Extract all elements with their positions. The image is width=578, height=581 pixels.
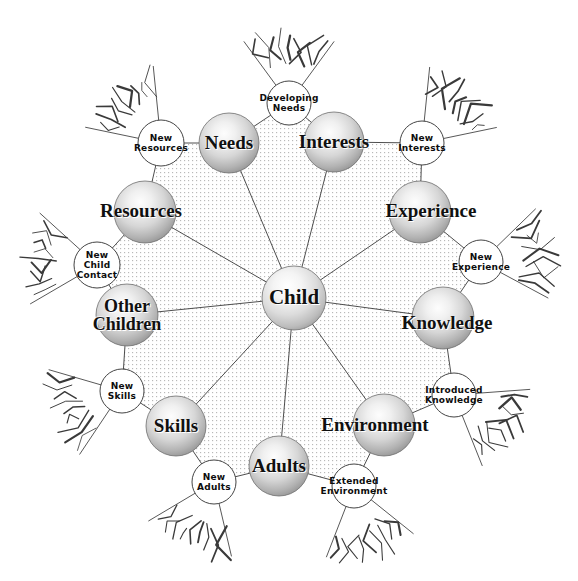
- major-node-sphere[interactable]: [96, 284, 158, 346]
- burst-spike: [489, 428, 506, 441]
- major-node-experience[interactable]: [389, 181, 451, 243]
- major-node-environment[interactable]: [353, 394, 415, 456]
- major-node-sphere[interactable]: [412, 287, 474, 349]
- diagram-canvas: NeedsInterestsExperienceKnowledgeEnviron…: [0, 0, 578, 581]
- minor-node-circle[interactable]: [400, 121, 444, 165]
- center-node-child[interactable]: [262, 266, 326, 330]
- burst-guide-line: [496, 209, 535, 247]
- minor-node-new-child-contact[interactable]: [74, 242, 120, 288]
- burst-spike: [522, 238, 555, 250]
- burst-spike: [378, 525, 395, 554]
- burst-guide-line: [443, 128, 497, 139]
- burst-guide-line: [326, 506, 346, 557]
- burst-spike: [253, 39, 269, 58]
- burst-guide-line: [462, 415, 482, 466]
- burst-spike: [534, 261, 559, 278]
- diagram-svg: [0, 0, 578, 581]
- burst-spike: [499, 397, 520, 409]
- burst-spike: [48, 373, 75, 382]
- burst-spike: [43, 384, 72, 390]
- burst-spike: [472, 125, 484, 130]
- burst-spike: [501, 395, 527, 397]
- center-node-sphere[interactable]: [262, 266, 326, 330]
- major-node-sphere[interactable]: [199, 113, 259, 173]
- burst-spike: [180, 528, 186, 539]
- burst-spike: [478, 426, 494, 450]
- major-node-interests[interactable]: [304, 112, 364, 172]
- burst-spike: [34, 249, 53, 258]
- burst-spike: [255, 33, 270, 68]
- burst-guide-line: [301, 42, 334, 86]
- burst-spike: [165, 521, 179, 532]
- burst-spike: [54, 392, 76, 399]
- major-node-sphere[interactable]: [389, 181, 451, 243]
- minor-node-circle[interactable]: [192, 460, 236, 504]
- major-node-sphere[interactable]: [114, 181, 176, 243]
- burst-spike: [96, 114, 125, 127]
- center-node-sphere: [262, 266, 326, 330]
- burst-spike: [487, 423, 508, 447]
- burst-spike: [499, 415, 523, 432]
- burst-spike: [519, 280, 549, 293]
- burst-spike: [339, 538, 348, 563]
- burst-spike: [331, 537, 339, 558]
- major-node-sphere[interactable]: [146, 396, 206, 456]
- minor-node-new-interests[interactable]: [400, 121, 444, 165]
- burst-spike: [34, 284, 56, 294]
- burst-spike: [363, 524, 376, 552]
- burst-guide-line: [30, 276, 78, 304]
- burst-guide-line: [475, 389, 530, 393]
- burst-spike: [101, 122, 120, 130]
- burst-spike: [204, 524, 209, 550]
- major-node-skills[interactable]: [146, 396, 206, 456]
- burst-spike: [64, 407, 85, 414]
- major-node-other-children[interactable]: [96, 284, 158, 346]
- minor-node-circle[interactable]: [267, 81, 311, 125]
- burst-spike: [158, 505, 177, 519]
- major-node-resources[interactable]: [114, 181, 176, 243]
- burst-spike: [526, 257, 561, 267]
- minor-node-circle[interactable]: [138, 120, 184, 166]
- ring-connector: [421, 164, 422, 182]
- burst-spike: [288, 36, 291, 60]
- burst-spike: [370, 531, 383, 560]
- minor-node-new-adults[interactable]: [192, 460, 236, 504]
- burst-guide-line: [49, 370, 102, 385]
- minor-node-circle[interactable]: [100, 369, 144, 413]
- minor-node-circle[interactable]: [332, 464, 376, 508]
- major-node-adults[interactable]: [249, 436, 309, 496]
- minor-node-developing-needs[interactable]: [267, 81, 311, 125]
- burst-spike: [33, 231, 52, 245]
- burst-spike: [32, 260, 51, 273]
- burst-guide-line: [80, 408, 111, 454]
- burst-spike: [512, 221, 540, 239]
- burst-spike: [44, 221, 67, 238]
- minor-node-circle[interactable]: [432, 373, 476, 417]
- major-node-knowledge[interactable]: [412, 287, 474, 349]
- major-node-sphere[interactable]: [304, 112, 364, 172]
- minor-node-new-resources[interactable]: [138, 120, 184, 166]
- burst-spike: [198, 522, 204, 542]
- burst-spike: [523, 249, 558, 261]
- minor-node-circle[interactable]: [459, 240, 503, 284]
- burst-spike: [67, 414, 79, 423]
- burst-spike: [97, 106, 118, 121]
- burst-spike: [348, 535, 359, 558]
- burst-guide-line: [370, 499, 413, 533]
- burst-guide-line: [40, 213, 81, 250]
- major-node-needs[interactable]: [199, 113, 259, 173]
- major-node-sphere[interactable]: [353, 394, 415, 456]
- burst-spike: [464, 104, 492, 124]
- burst-spike: [34, 240, 46, 249]
- minor-node-introduced-knowledge[interactable]: [432, 373, 476, 417]
- minor-node-new-experience[interactable]: [459, 240, 503, 284]
- minor-node-circle[interactable]: [74, 242, 120, 288]
- burst-spike: [78, 428, 97, 450]
- minor-node-new-skills[interactable]: [100, 369, 144, 413]
- minor-node-extended-environment[interactable]: [332, 464, 376, 508]
- major-node-sphere[interactable]: [249, 436, 309, 496]
